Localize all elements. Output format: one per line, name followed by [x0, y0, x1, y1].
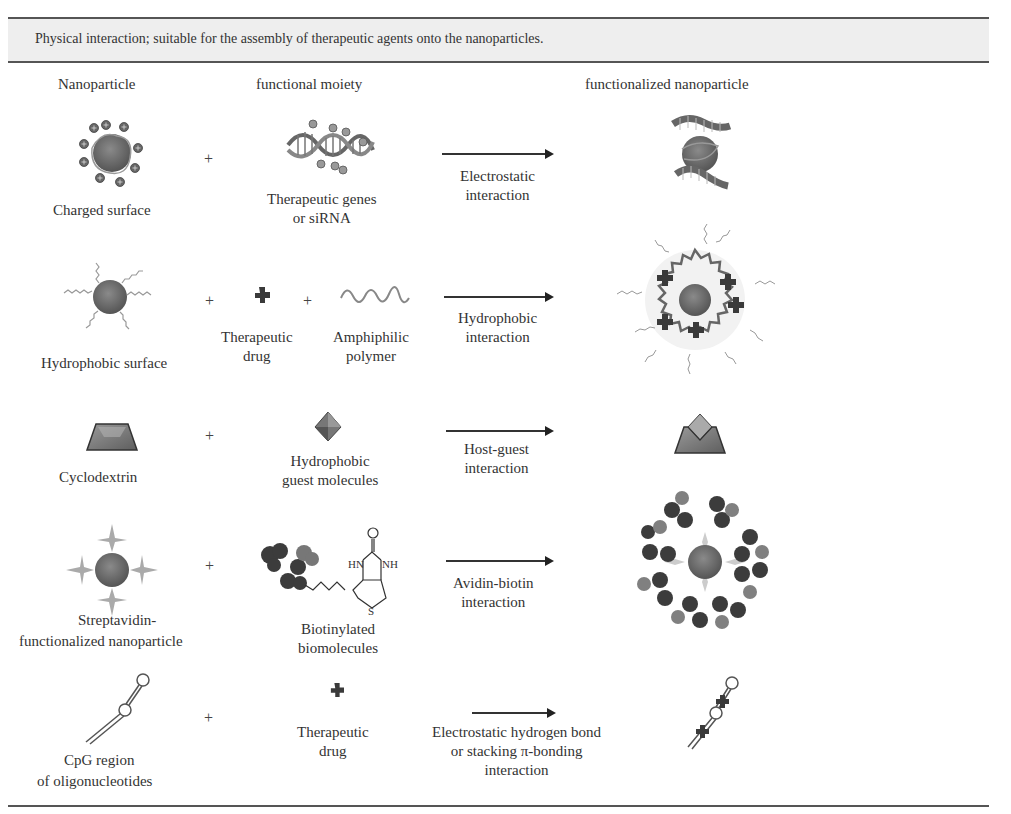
antibody-coated-nanoparticle-icon — [630, 492, 780, 632]
cyclodextrin-trapezoid-icon — [86, 423, 138, 451]
label-avidin-biotin-interaction: Avidin-biotin interaction — [453, 574, 534, 612]
plus-operator: + — [303, 292, 312, 310]
label-cyclodextrin: Cyclodextrin — [59, 468, 137, 487]
label-electrostatic-interaction: Electrostatic interaction — [460, 167, 535, 205]
biotinylated-antibody-icon: HN NH S — [258, 525, 418, 625]
label-stacking-interaction: Electrostatic hydrogen bond or stacking … — [432, 723, 601, 780]
reaction-arrow — [442, 153, 552, 155]
label-biotinylated-biomolecules: Biotinylated biomolecules — [298, 620, 378, 658]
inclusion-complex-icon — [674, 412, 726, 454]
label-streptavidin: Streptavidin- — [78, 611, 156, 630]
label-cpg-region: CpG region — [64, 751, 134, 770]
label-functionalized-nanoparticle: functionalized nanoparticle — [19, 632, 183, 651]
column-header-functional-moiety: functional moiety — [256, 76, 362, 93]
dna-wrapped-nanoparticle-icon — [668, 114, 733, 192]
chem-label-s: S — [368, 605, 374, 617]
label-host-guest-interaction: Host-guest interaction — [464, 440, 529, 478]
guest-diamond-icon — [314, 412, 342, 442]
bottom-rule — [8, 805, 989, 807]
chem-label-nh: NH — [382, 558, 398, 570]
plus-operator: + — [205, 292, 214, 310]
plus-operator: + — [204, 150, 213, 168]
label-hydrophobic-guest-molecules: Hydrophobic guest molecules — [282, 452, 378, 490]
streptavidin-nanoparticle-icon — [64, 522, 160, 618]
header-rule — [8, 61, 989, 63]
label-of-oligonucleotides: of oligonucleotides — [37, 772, 152, 791]
label-amphiphilic-polymer: Amphiphilic polymer — [333, 328, 409, 366]
drug-loaded-cpg-icon — [686, 675, 742, 751]
label-therapeutic-drug-2: Therapeutic drug — [297, 723, 369, 761]
label-therapeutic-genes: Therapeutic genes or siRNA — [267, 190, 377, 228]
chem-label-hn: HN — [348, 558, 364, 570]
label-hydrophobic-interaction: Hydrophobic interaction — [458, 309, 537, 347]
charged-nanoparticle-icon — [72, 118, 152, 188]
label-charged-surface: Charged surface — [53, 201, 151, 220]
hydrophobic-nanoparticle-icon — [62, 255, 162, 340]
caption-text: Physical interaction; suitable for the a… — [35, 31, 544, 47]
polymer-wave-icon — [339, 284, 411, 304]
drug-cross-icon — [330, 683, 344, 697]
dna-helix-icon — [283, 120, 373, 175]
reaction-arrow — [446, 430, 552, 432]
cpg-hairpin-icon — [82, 672, 152, 744]
reaction-arrow — [446, 560, 552, 562]
label-therapeutic-drug: Therapeutic drug — [221, 328, 293, 366]
column-header-functionalized-nanoparticle: functionalized nanoparticle — [585, 76, 749, 93]
column-header-nanoparticle: Nanoparticle — [58, 76, 135, 93]
polymer-micelle-nanoparticle-icon — [615, 222, 785, 382]
plus-operator: + — [204, 709, 213, 727]
plus-operator: + — [205, 557, 214, 575]
label-hydrophobic-surface: Hydrophobic surface — [41, 354, 167, 373]
drug-cross-icon — [254, 287, 270, 303]
reaction-arrow — [444, 296, 552, 298]
reaction-arrow — [472, 712, 554, 714]
plus-operator: + — [205, 427, 214, 445]
